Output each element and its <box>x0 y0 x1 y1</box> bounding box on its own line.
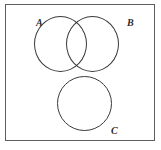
set-circle-b <box>66 16 119 72</box>
set-label-b: B <box>127 18 134 28</box>
set-circle-c <box>57 76 112 131</box>
set-label-c: C <box>111 126 118 136</box>
venn-diagram-figure: A B C <box>0 0 161 150</box>
